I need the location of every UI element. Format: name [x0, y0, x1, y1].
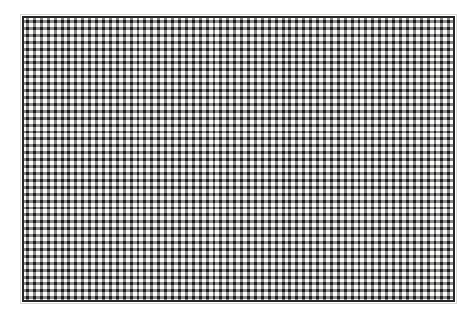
image-canvas [0, 0, 475, 318]
mesh-panel [22, 16, 455, 302]
mesh-weave-texture [22, 16, 455, 302]
